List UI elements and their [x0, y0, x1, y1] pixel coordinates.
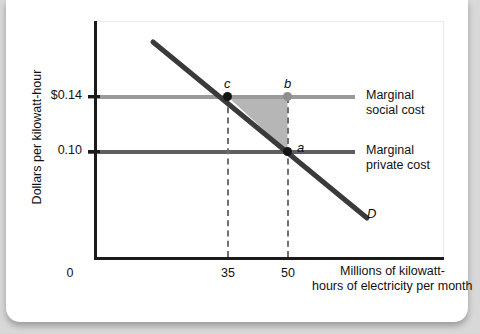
legend-msc-line1: Marginal	[366, 88, 424, 103]
x-axis-title: Millions of kilowatt- hours of electrici…	[340, 264, 480, 295]
y-tick-014	[88, 95, 100, 98]
demand-curve-label: D	[367, 206, 376, 221]
point-a-label: a	[297, 140, 304, 155]
x-axis-title-line1: Millions of kilowatt-	[340, 264, 445, 278]
y-axis-title: Dollars per kilowatt-hour	[30, 37, 44, 237]
legend-mpc-line2: private cost	[366, 158, 430, 173]
economics-externality-chart: $0.14 0.10 Dollars per kilowatt-hour 0 3…	[0, 0, 480, 334]
point-c-label: c	[224, 76, 231, 91]
origin-label: 0	[60, 266, 80, 280]
point-b-label: b	[284, 76, 291, 91]
plot-frame-right	[443, 21, 444, 259]
point-c-marker	[223, 92, 232, 101]
y-tick-010	[88, 150, 100, 153]
x-axis	[94, 257, 444, 260]
y-axis	[94, 21, 97, 259]
legend-mpc-line1: Marginal	[366, 143, 430, 158]
legend-msc-line2: social cost	[366, 103, 424, 118]
point-b-marker	[283, 92, 292, 101]
legend-marginal-private-cost: Marginal private cost	[366, 143, 430, 174]
x-tick-label-35: 35	[208, 266, 248, 280]
x-tick-label-50: 50	[268, 266, 308, 280]
demand-curve	[140, 30, 380, 230]
legend-marginal-social-cost: Marginal social cost	[366, 88, 424, 119]
point-a-marker	[283, 147, 292, 156]
x-axis-title-line2: hours of electricity per month	[312, 279, 480, 294]
plot-frame-top	[94, 21, 444, 22]
